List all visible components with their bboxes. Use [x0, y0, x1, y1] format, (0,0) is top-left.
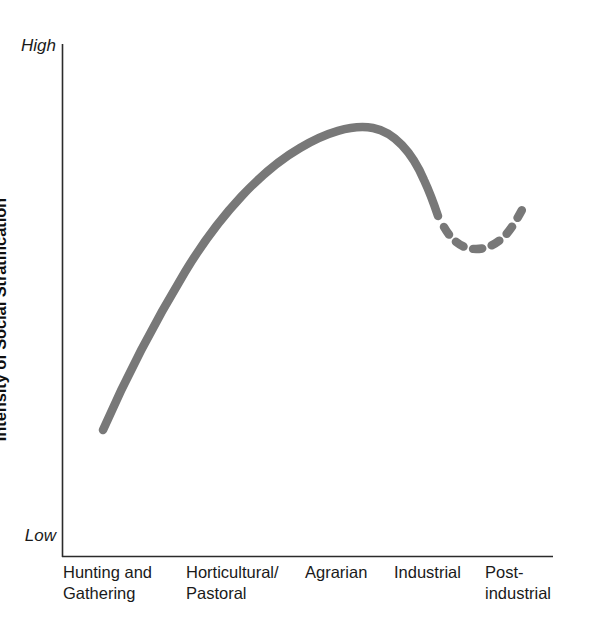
x-axis-label-hunting-and-gathering: Hunting and Gathering: [63, 562, 152, 604]
series-line-dashed: [444, 202, 526, 249]
x-axis-labels: Hunting and Gathering Horticultural/ Pas…: [0, 562, 589, 632]
x-axis-label-agrarian: Agrarian: [305, 562, 367, 583]
plot-area: [0, 0, 589, 639]
series-line-solid: [103, 127, 438, 430]
chart-figure: High Low Intensity of Social Stratificat…: [0, 0, 589, 639]
x-axis-label-post-industrial: Post- industrial: [485, 562, 551, 604]
x-axis-label-industrial: Industrial: [394, 562, 461, 583]
x-axis-label-horticultural-pastoral: Horticultural/ Pastoral: [186, 562, 279, 604]
